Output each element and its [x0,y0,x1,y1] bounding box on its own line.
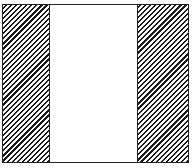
left-hatched-region [3,5,50,162]
diagram-canvas [0,0,192,168]
outer-rectangle [2,4,189,163]
center-blank-region [50,5,137,162]
right-hatched-region [137,5,188,162]
